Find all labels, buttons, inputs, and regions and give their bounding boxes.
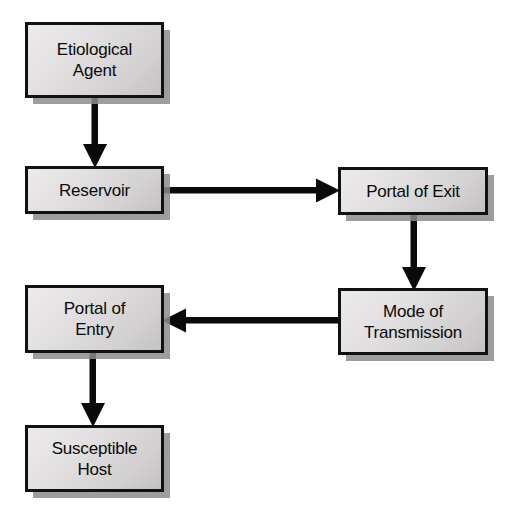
node-label-portal-of-entry: Portal of Entry [64,298,126,340]
node-mode-of-transmission[interactable]: Mode of Transmission [338,288,488,355]
arrowhead-right [316,179,340,203]
node-label-mode-of-transmission: Mode of Transmission [364,301,462,343]
edge-entry-to-host [78,351,108,429]
arrowhead-down [83,144,107,168]
node-susceptible-host[interactable]: Susceptible Host [25,425,164,492]
node-reservoir[interactable]: Reservoir [25,166,164,214]
edge-agent-to-reservoir [80,96,110,170]
node-portal-of-exit[interactable]: Portal of Exit [338,167,488,215]
arrowhead-left [162,309,186,333]
node-label-susceptible-host: Susceptible Host [52,438,138,480]
edge-line [90,351,97,405]
node-etiological-agent[interactable]: Etiological Agent [25,22,164,98]
edge-reservoir-to-exit [160,178,342,204]
edge-line [411,213,418,269]
chain-of-infection-diagram: Etiological Agent Reservoir Portal of Ex… [0,0,518,528]
node-portal-of-entry[interactable]: Portal of Entry [25,285,164,353]
edge-exit-to-transmission [399,213,429,293]
edge-transmission-to-entry [160,308,342,334]
edge-line [184,317,342,324]
arrowhead-down [81,403,105,427]
edge-line [92,96,99,146]
node-label-reservoir: Reservoir [59,180,130,201]
node-label-etiological-agent: Etiological Agent [57,39,132,81]
node-label-portal-of-exit: Portal of Exit [366,181,460,202]
edge-line [160,187,318,194]
